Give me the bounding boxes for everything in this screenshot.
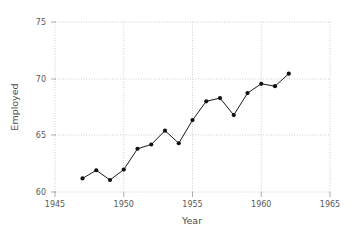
data-point <box>232 113 236 117</box>
y-tick-label-60: 60 <box>36 188 46 197</box>
y-tick-labels: 75 70 65 60 <box>36 18 46 197</box>
data-point <box>204 99 208 103</box>
data-point <box>149 142 153 146</box>
data-point <box>177 141 181 145</box>
x-tick-labels: 1945 1950 1955 1960 1965 <box>45 200 340 209</box>
x-tick-label-1945: 1945 <box>45 200 65 209</box>
x-tickmarks <box>55 192 330 197</box>
data-point <box>122 168 126 172</box>
data-point <box>94 168 98 172</box>
y-axis-title: Employed <box>9 83 20 130</box>
x-axis-title: Year <box>181 215 202 226</box>
x-tick-label-1965: 1965 <box>320 200 340 209</box>
data-point <box>218 96 222 100</box>
data-point <box>108 178 112 182</box>
data-point <box>287 72 291 76</box>
y-tick-label-75: 75 <box>36 18 46 27</box>
data-point <box>80 176 84 180</box>
x-tick-label-1960: 1960 <box>251 200 271 209</box>
data-point <box>259 82 263 86</box>
data-point <box>273 84 277 88</box>
plot-background <box>55 22 330 192</box>
y-tick-label-70: 70 <box>36 75 46 84</box>
data-point <box>190 118 194 122</box>
data-point <box>135 147 139 151</box>
x-tick-label-1950: 1950 <box>114 200 134 209</box>
chart-figure: 75 70 65 60 1945 1950 1955 1960 1965 Yea… <box>0 0 354 237</box>
line-chart-canvas: 75 70 65 60 1945 1950 1955 1960 1965 Yea… <box>0 0 354 237</box>
y-tick-label-65: 65 <box>36 131 46 140</box>
data-point <box>245 91 249 95</box>
x-tick-label-1955: 1955 <box>182 200 202 209</box>
data-point <box>163 129 167 133</box>
